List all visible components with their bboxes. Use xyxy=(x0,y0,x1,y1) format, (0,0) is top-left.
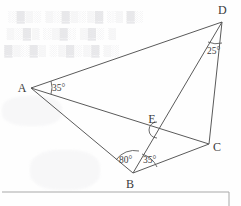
segment-AB xyxy=(31,88,133,173)
figure-angle-labels: 35° 25° 80° 35° xyxy=(52,46,221,165)
content-box xyxy=(2,192,229,206)
figure-page: ░▓ ▒░ ▓▒░▒▓░▒ ░▒▓░ ▒ ░▓▒ ░▓▒░ ▒▓░▒ ░▒ ▓▒… xyxy=(0,0,241,206)
geometry-figure: A B C D E 35° 25° 80° 35° xyxy=(0,0,241,206)
angle-label-D-25: 25° xyxy=(207,46,221,56)
angle-label-B-35: 35° xyxy=(143,155,157,165)
vertex-label-C: C xyxy=(213,140,221,154)
segment-AD xyxy=(31,22,222,88)
angle-label-A-35: 35° xyxy=(52,83,66,93)
segment-BD xyxy=(133,22,222,173)
angle-label-B-80: 80° xyxy=(119,155,133,165)
figure-segments xyxy=(31,22,222,173)
vertex-label-A: A xyxy=(18,81,27,95)
content-box-border xyxy=(2,192,229,206)
vertex-label-B: B xyxy=(126,177,134,191)
vertex-label-D: D xyxy=(218,3,227,17)
figure-angle-arcs xyxy=(51,42,222,167)
segment-AC xyxy=(31,88,209,144)
vertex-label-E: E xyxy=(148,112,155,126)
